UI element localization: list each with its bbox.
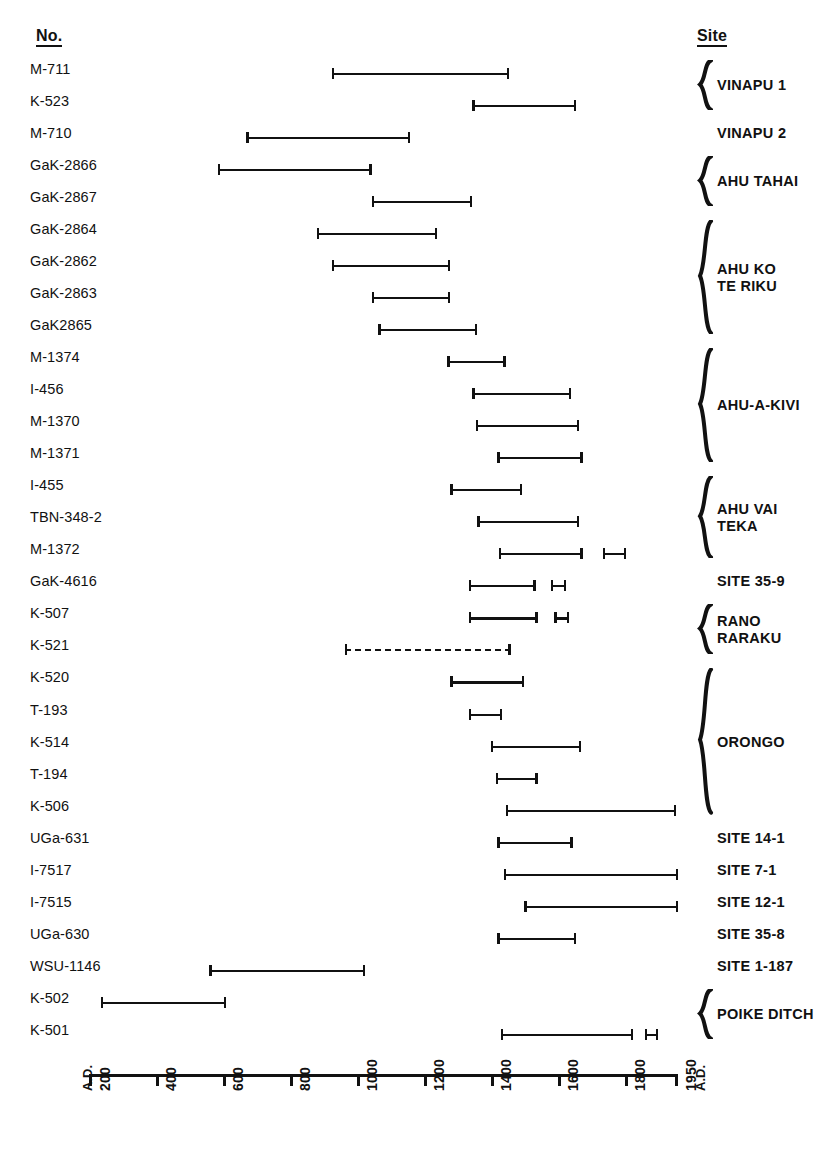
axis-tick bbox=[491, 1074, 494, 1086]
axis-tick bbox=[357, 1074, 360, 1086]
axis-tick-label: 800 bbox=[297, 1067, 313, 1091]
axis-era-label-left: A.D. bbox=[80, 1065, 95, 1091]
axis-tick bbox=[290, 1074, 293, 1086]
axis-era-label-right: A.D. bbox=[693, 1065, 708, 1091]
axis-tick-label: 1000 bbox=[364, 1059, 380, 1091]
axis-tick bbox=[675, 1074, 678, 1086]
axis-tick bbox=[625, 1074, 628, 1086]
axis-tick bbox=[223, 1074, 226, 1086]
axis-tick-label: 600 bbox=[230, 1067, 246, 1091]
time-axis: 200400600800100012001400160018001950A.D.… bbox=[0, 0, 827, 1151]
axis-tick-label: 1600 bbox=[565, 1059, 581, 1091]
axis-tick-label: 200 bbox=[97, 1067, 113, 1091]
axis-tick-label: 1400 bbox=[498, 1059, 514, 1091]
axis-tick bbox=[558, 1074, 561, 1086]
radiocarbon-date-range-chart: No. Site M-711K-523M-710GaK-2866GaK-2867… bbox=[0, 0, 827, 1151]
axis-tick-label: 400 bbox=[163, 1067, 179, 1091]
axis-tick bbox=[424, 1074, 427, 1086]
axis-tick-label: 1800 bbox=[632, 1059, 648, 1091]
axis-tick bbox=[156, 1074, 159, 1086]
axis-tick-label: 1200 bbox=[431, 1059, 447, 1091]
